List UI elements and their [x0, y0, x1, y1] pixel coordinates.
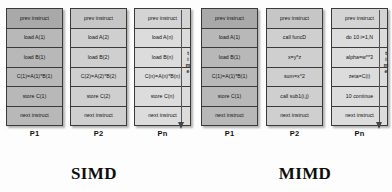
instruction-cell: store C(2) — [71, 87, 126, 107]
instruction-cell: C(1)=A(1)*B(1) — [7, 68, 62, 88]
panel-caption-mimd: MIMD — [196, 164, 392, 184]
panel-simd: prev instruct load A(1) load B(1) C(1)=A… — [0, 0, 196, 192]
instruction-cell: load A(1) — [202, 29, 257, 49]
instruction-cell: next instruct — [71, 107, 126, 126]
panel-caption-simd: SIMD — [0, 164, 196, 184]
instruction-cell: load B(1) — [7, 48, 62, 68]
instruction-cell: prev instruct — [267, 9, 322, 29]
processor-label: P1 — [6, 129, 63, 138]
instruction-cell: load B(2) — [71, 48, 126, 68]
instruction-cell: prev instruct — [202, 9, 257, 29]
instruction-cell: store C(1) — [7, 87, 62, 107]
time-axis-mimd: time — [374, 10, 392, 132]
instruction-stack: prev instruct call funcD x=y*z sum=x^2 c… — [266, 8, 323, 126]
time-axis-label: time — [383, 50, 388, 74]
processor-column: prev instruct load A(1) load B(1) C(1)=A… — [201, 8, 258, 138]
processor-columns-mimd: prev instruct load A(1) load B(1) C(1)=A… — [196, 8, 392, 138]
instruction-cell: x=y*z — [267, 48, 322, 68]
panel-mimd: prev instruct load A(1) load B(1) C(1)=A… — [196, 0, 392, 192]
instruction-cell: sum=x^2 — [267, 68, 322, 88]
time-arrow-icon — [376, 122, 382, 129]
time-axis-line — [181, 10, 182, 124]
instruction-cell: load B(1) — [202, 48, 257, 68]
diagram-canvas: prev instruct load A(1) load B(1) C(1)=A… — [0, 0, 392, 192]
instruction-cell: load A(1) — [7, 29, 62, 49]
time-axis-line — [379, 10, 380, 124]
instruction-cell: C(2)=A(2)*B(2) — [71, 68, 126, 88]
instruction-cell: store C(1) — [202, 87, 257, 107]
instruction-cell: C(1)=A(1)*B(1) — [202, 68, 257, 88]
instruction-stack: prev instruct load A(2) load B(2) C(2)=A… — [70, 8, 127, 126]
processor-column: prev instruct call funcD x=y*z sum=x^2 c… — [266, 8, 323, 138]
instruction-cell: load A(2) — [71, 29, 126, 49]
processor-label: P2 — [266, 129, 323, 138]
instruction-cell: next instruct — [202, 107, 257, 126]
time-axis-label: time — [185, 50, 190, 74]
instruction-stack: prev instruct load A(1) load B(1) C(1)=A… — [6, 8, 63, 126]
processor-column: prev instruct load A(2) load B(2) C(2)=A… — [70, 8, 127, 138]
time-axis-simd: time — [176, 10, 194, 132]
instruction-stack: prev instruct load A(1) load B(1) C(1)=A… — [201, 8, 258, 126]
instruction-cell: call sub1(i,j) — [267, 87, 322, 107]
processor-label: P1 — [201, 129, 258, 138]
instruction-cell: call funcD — [267, 29, 322, 49]
processor-columns-simd: prev instruct load A(1) load B(1) C(1)=A… — [0, 8, 196, 138]
processor-label: P2 — [70, 129, 127, 138]
instruction-cell: next instruct — [7, 107, 62, 126]
instruction-cell: prev instruct — [7, 9, 62, 29]
instruction-cell: next instruct — [267, 107, 322, 126]
processor-column: prev instruct load A(1) load B(1) C(1)=A… — [6, 8, 63, 138]
time-arrow-icon — [178, 122, 184, 129]
instruction-cell: prev instruct — [71, 9, 126, 29]
